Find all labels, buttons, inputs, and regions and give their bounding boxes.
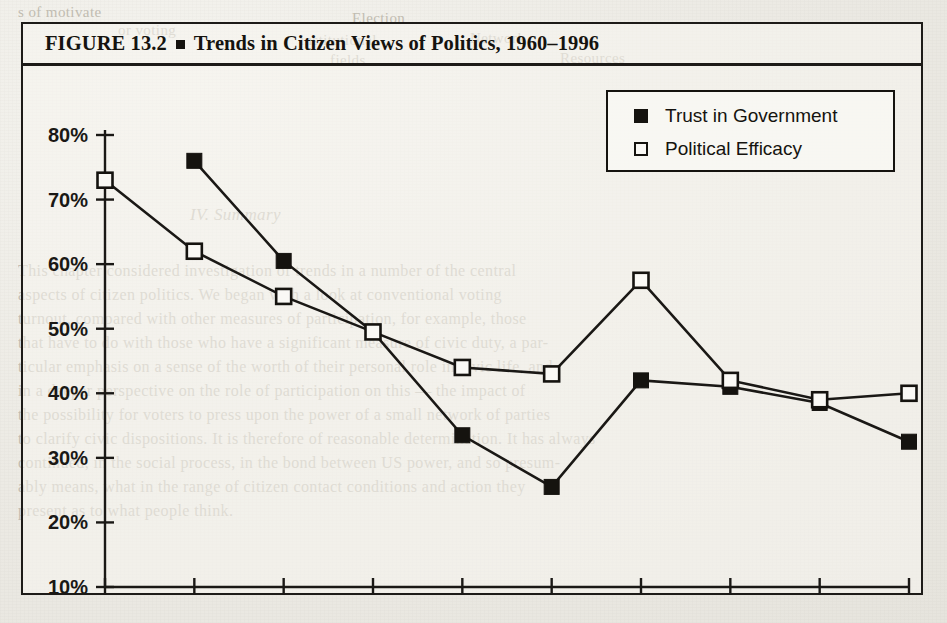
y-axis-tick-label: 10%	[48, 576, 88, 595]
y-axis-tick-label: 30%	[48, 447, 88, 469]
data-point-marker-open-square	[98, 173, 113, 188]
data-point-marker-open-square	[187, 244, 202, 259]
y-axis-tick-label: 50%	[48, 318, 88, 340]
y-axis-tick-label: 80%	[48, 124, 88, 146]
legend-label-trust-in-government: Trust in Government	[665, 105, 837, 127]
square-bullet-icon	[176, 40, 185, 49]
figure-caption: FIGURE 13.2Trends in Citizen Views of Po…	[45, 32, 599, 55]
data-point-marker-open-square	[544, 366, 559, 381]
data-point-marker-open-square	[455, 360, 470, 375]
y-axis-tick-label: 60%	[48, 253, 88, 275]
data-point-marker-open-square	[723, 373, 738, 388]
data-point-marker-filled-square	[276, 253, 291, 268]
data-point-marker-filled-square	[634, 373, 649, 388]
data-point-marker-open-square	[366, 324, 381, 339]
y-axis-tick-label: 20%	[48, 511, 88, 533]
data-point-marker-filled-square	[902, 434, 917, 449]
chart-legend: Trust in Government Political Efficacy	[606, 90, 895, 172]
data-point-marker-open-square	[812, 392, 827, 407]
legend-entry-trust-in-government: Trust in Government	[634, 105, 837, 127]
series-line-group	[105, 161, 909, 487]
data-point-marker-open-square	[902, 386, 917, 401]
figure-caption-number: FIGURE 13.2	[45, 32, 167, 54]
y-axis-tick-label: 40%	[48, 382, 88, 404]
data-point-marker-open-square	[276, 289, 291, 304]
legend-label-political-efficacy: Political Efficacy	[665, 138, 802, 160]
data-point-marker-filled-square	[455, 428, 470, 443]
data-point-marker-filled-square	[544, 479, 559, 494]
open-square-icon	[634, 142, 648, 156]
series-marker-group	[98, 153, 917, 494]
figure-box: FIGURE 13.2Trends in Citizen Views of Po…	[21, 22, 923, 595]
figure-caption-title: Trends in Citizen Views of Politics, 196…	[194, 32, 599, 54]
data-point-marker-filled-square	[187, 153, 202, 168]
legend-entry-political-efficacy: Political Efficacy	[634, 138, 802, 160]
series-line-political-efficacy	[105, 180, 909, 400]
y-axis-tick-label: 70%	[48, 189, 88, 211]
data-point-marker-open-square	[634, 273, 649, 288]
figure-caption-bar: FIGURE 13.2Trends in Citizen Views of Po…	[23, 24, 921, 66]
filled-square-icon	[634, 109, 648, 123]
series-line-trust-in-government	[194, 161, 909, 487]
